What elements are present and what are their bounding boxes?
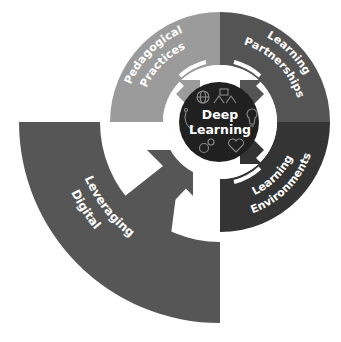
deep-learning-diagram: Deep Learning Pedagogical Practices Lear… [0,0,341,342]
center-label-line2: Learning [189,122,251,137]
center-label-line1: Deep [202,107,238,122]
